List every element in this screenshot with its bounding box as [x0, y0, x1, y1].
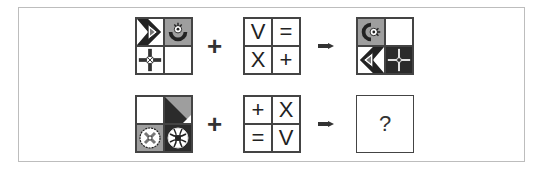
row2-input-cell-1 [136, 96, 164, 124]
right-arrow-icon [318, 43, 334, 49]
symbol: V [251, 21, 266, 43]
x-circle-icon [137, 125, 163, 151]
row2-input-cell-2 [164, 96, 192, 124]
symbol: + [252, 99, 265, 121]
symbol: X [251, 49, 266, 71]
answer-box[interactable]: ? [356, 95, 414, 153]
row1-output-cell-4 [385, 46, 413, 74]
row2-symbol-cell-4: V [272, 124, 300, 152]
row2-input-cell-3 [136, 124, 164, 152]
symbol: = [280, 21, 293, 43]
row2-input-cell-4 [164, 124, 192, 152]
row2-symbol-cell-2: X [272, 96, 300, 124]
symbol: X [279, 99, 294, 121]
row1-input-cell-1 [136, 18, 164, 46]
semicircle-gear-rotated-icon [358, 18, 384, 46]
plus-operator: + [207, 33, 222, 59]
row1-output-cell-3 [357, 46, 385, 74]
row1-input-cell-3 [136, 46, 164, 74]
row2-symbol-cell-1: + [244, 96, 272, 124]
symbol: V [279, 127, 294, 149]
row1-symbol-cell-2: = [272, 18, 300, 46]
row1-symbol-cell-4: + [272, 46, 300, 74]
row1-input-cell-4 [164, 46, 192, 74]
diagonal-triangle-icon [165, 97, 191, 123]
symbol: = [252, 127, 265, 149]
row1-output-cell-2 [385, 18, 413, 46]
row2-symbol-cell-3: = [244, 124, 272, 152]
chevron-arrow-mirrored-icon [358, 46, 384, 74]
row1-symbol-grid: V = X + [243, 17, 301, 75]
row1-symbol-cell-1: V [244, 18, 272, 46]
semicircle-gear-icon [165, 18, 191, 46]
symbol: + [280, 49, 293, 71]
globe-circle-icon [165, 125, 191, 151]
right-arrow-icon [318, 121, 334, 127]
row1-input-grid [135, 17, 193, 75]
crosshair-plus-icon [137, 46, 163, 74]
row1-output-grid [356, 17, 414, 75]
row1-symbol-cell-3: X [244, 46, 272, 74]
row1-input-cell-2 [164, 18, 192, 46]
row2-symbol-grid: + X = V [243, 95, 301, 153]
crosshair-plus-inverted-icon [386, 46, 412, 74]
row2-input-grid [135, 95, 193, 153]
row1-output-cell-1 [357, 18, 385, 46]
question-mark: ? [379, 111, 391, 137]
chevron-arrow-icon [137, 18, 163, 46]
plus-operator: + [207, 111, 222, 137]
